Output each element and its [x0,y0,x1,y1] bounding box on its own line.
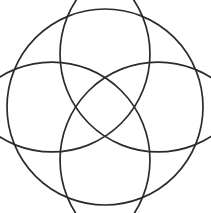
background [0,0,211,213]
rosette-figure: Geometric Rosette [0,0,211,213]
figure-canvas: Geometric Rosette [0,0,211,213]
